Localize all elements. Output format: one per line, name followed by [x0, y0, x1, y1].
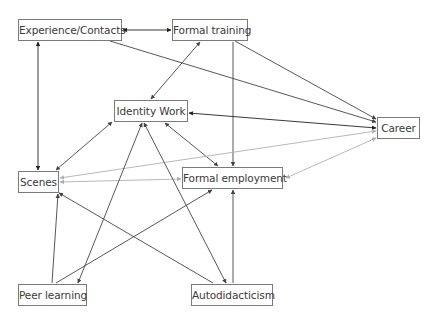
node-formal-employment[interactable]: Formal employment — [182, 167, 283, 189]
edge-idw-femp — [165, 123, 218, 166]
diagram-canvas — [0, 0, 430, 321]
edges-layer — [38, 30, 376, 283]
edge-peer-idw — [78, 123, 142, 283]
edge-auto-idw — [144, 123, 226, 283]
node-identity-work[interactable]: Identity Work — [114, 100, 188, 122]
node-peer-learning[interactable]: Peer learning — [18, 284, 87, 306]
edge-sce-femp — [60, 179, 181, 182]
node-formal-training[interactable]: Formal training — [172, 19, 248, 41]
node-experience-contacts[interactable]: Experience/Contacts — [18, 19, 122, 41]
edge-idw-sce — [56, 122, 112, 170]
node-autodidacticism[interactable]: Autodidacticism — [191, 284, 273, 306]
edge-car-femp — [286, 138, 376, 178]
edge-peer-sce — [52, 194, 58, 283]
edge-ftr-idw — [151, 42, 200, 99]
node-scenes[interactable]: Scenes — [18, 171, 59, 193]
edge-idw-car — [189, 113, 376, 128]
edge-auto-sce — [59, 193, 213, 283]
node-career[interactable]: Career — [377, 117, 420, 139]
edge-ftr-car — [235, 41, 376, 119]
